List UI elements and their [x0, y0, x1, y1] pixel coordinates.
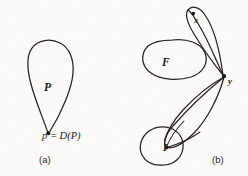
panel-b-group: [140, 7, 226, 165]
lens-y-to-i-inner: [165, 77, 224, 147]
label-blob-f: F: [162, 57, 170, 69]
panel-caption-b: (b): [212, 155, 224, 165]
lens-y-to-i-outline: [165, 77, 224, 148]
point-y-dot: [222, 74, 226, 78]
equation-p-equals-dp: p = D(P): [42, 131, 81, 142]
label-region-p: P: [44, 82, 51, 94]
label-point-y: y: [228, 77, 232, 86]
figure-canvas: P p = D(P) (a) F I x y (b): [0, 0, 248, 176]
blob-f-outline: [143, 40, 207, 80]
label-blob-i: I: [163, 143, 167, 154]
figure-vector-layer: [0, 0, 248, 176]
panel-caption-a: (a): [39, 155, 51, 165]
label-point-x: x: [194, 16, 199, 25]
